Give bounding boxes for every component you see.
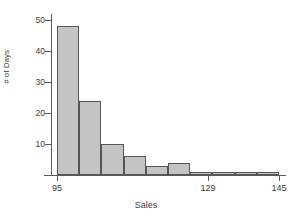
histogram-bar (101, 144, 123, 175)
y-tick-label-wrap: 40 (0, 51, 45, 52)
y-tick-label: 10 (23, 139, 45, 149)
histogram-bar (146, 166, 168, 175)
x-tick-label: 145 (259, 183, 292, 193)
x-tick-label: 129 (188, 183, 228, 193)
y-tick-mark (45, 51, 51, 52)
x-axis-title: Sales (0, 200, 292, 210)
y-tick-label-wrap: 30 (0, 82, 45, 83)
histogram-bar (212, 172, 234, 175)
histogram-bar (235, 172, 257, 175)
y-tick-label: 30 (23, 77, 45, 87)
y-axis-line (51, 14, 52, 175)
y-tick-label: 20 (23, 108, 45, 118)
histogram-bar (257, 172, 279, 175)
y-axis-title: # of Days (2, 50, 16, 84)
x-tick-mark (208, 176, 209, 181)
y-tick-label: 50 (23, 15, 45, 25)
y-tick-label: 40 (23, 46, 45, 56)
y-tick-mark (45, 144, 51, 145)
histogram-bar (79, 101, 101, 175)
plot-area (57, 14, 279, 175)
x-tick-label: 95 (37, 183, 77, 193)
x-tick-mark (279, 176, 280, 181)
y-tick-label-wrap: 10 (0, 144, 45, 145)
y-tick-label-wrap: 50 (0, 20, 45, 21)
y-tick-mark (45, 82, 51, 83)
histogram-chart: # of Days 1020304050 95129145 Sales (0, 0, 292, 221)
histogram-bar (124, 156, 146, 175)
y-tick-label-wrap: 20 (0, 113, 45, 114)
y-tick-mark (45, 20, 51, 21)
histogram-bar (168, 163, 190, 175)
histogram-bar (190, 172, 212, 175)
y-tick-mark (45, 113, 51, 114)
histogram-bar (57, 26, 79, 175)
x-axis-line (44, 175, 286, 176)
x-tick-mark (57, 176, 58, 181)
